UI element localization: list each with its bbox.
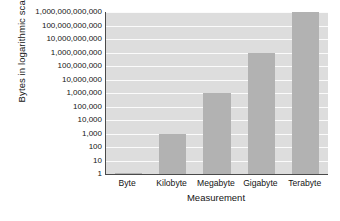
bar (115, 173, 142, 175)
bar (159, 134, 186, 175)
x-axis-title: Measurement (105, 192, 327, 203)
x-axis-tick-label: Byte (107, 178, 148, 188)
y-axis-tick-label: 100,000,000 (58, 62, 103, 70)
bar-slot (196, 12, 237, 174)
bar-slot (241, 12, 282, 174)
y-axis-tick-label: 10,000,000,000 (46, 35, 102, 43)
bar-chart: Bytes in logarithmic scale 1,000,000,000… (0, 0, 340, 221)
bar-series (106, 12, 328, 174)
x-axis-tick-label: Megabyte (195, 178, 236, 188)
x-axis-tick-label: Kilobyte (151, 178, 192, 188)
y-axis-tick-label: 100,000,000,000 (42, 22, 102, 30)
x-axis-tick-labels: ByteKilobyteMegabyteGigabyteTerabyte (105, 178, 327, 188)
plot-area (105, 12, 328, 175)
y-axis-tick-label: 1 (98, 170, 102, 178)
y-axis-tick-label: 1,000,000 (66, 89, 102, 97)
bar (203, 93, 230, 174)
bar-slot (108, 12, 149, 174)
y-axis-tick-labels: 1,000,000,000,000100,000,000,00010,000,0… (10, 12, 102, 174)
y-axis-tick-label: 10,000 (78, 116, 102, 124)
y-axis-tick-label: 10,000,000 (62, 76, 102, 84)
y-axis-tick-label: 1,000 (82, 130, 102, 138)
y-axis-tick-label: 1,000,000,000,000 (35, 8, 102, 16)
bar-slot (152, 12, 193, 174)
x-axis-tick-label: Terabyte (284, 178, 325, 188)
y-axis-tick-label: 1,000,000,000 (51, 49, 102, 57)
y-axis-tick-label: 100 (89, 143, 102, 151)
bar (248, 53, 275, 175)
bar (292, 12, 319, 174)
x-axis-tick-label: Gigabyte (240, 178, 281, 188)
y-axis-tick-label: 10 (93, 157, 102, 165)
bar-slot (285, 12, 326, 174)
y-axis-tick-label: 100,000 (73, 103, 102, 111)
